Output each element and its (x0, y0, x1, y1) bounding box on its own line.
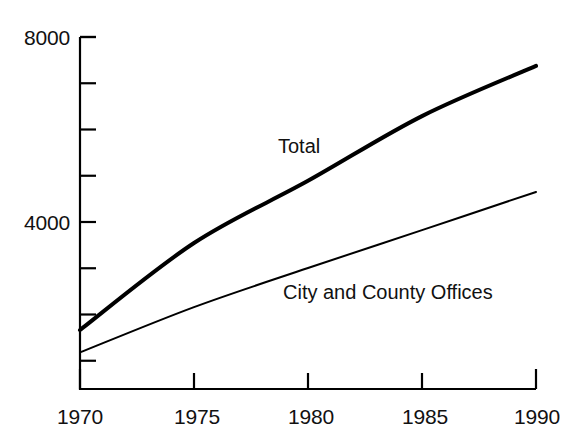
chart-plot-area (0, 0, 587, 446)
axis-layer (80, 37, 536, 389)
x-axis-label-1985: 1985 (383, 405, 467, 429)
x-axis-label-1990: 1990 (495, 405, 579, 429)
y-axis-label-4000: 4000 (8, 211, 70, 235)
line-chart-figure: 8000 4000 1970 1975 1980 1985 1990 Total… (0, 0, 587, 446)
y-axis-label-8000: 8000 (8, 26, 70, 50)
series-annotation-total: Total (278, 135, 320, 158)
series-annotation-city-and-county-offices: City and County Offices (283, 281, 493, 304)
series-layer (80, 66, 536, 353)
series-line-city-and-county-offices (80, 192, 536, 352)
x-axis-label-1980: 1980 (269, 405, 353, 429)
x-axis-label-1970: 1970 (38, 405, 122, 429)
x-axis-label-1975: 1975 (155, 405, 239, 429)
axis-spine (80, 37, 536, 389)
